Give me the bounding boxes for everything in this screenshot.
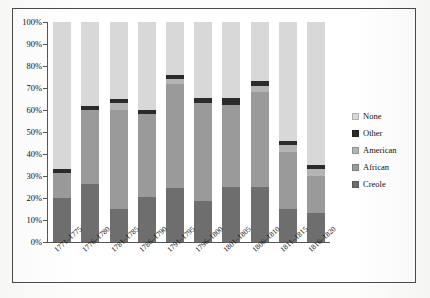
y-axis-tick-label: 0% — [31, 238, 42, 247]
x-axis-labels: 1771–17751776–17801781–17851786–17901791… — [47, 246, 330, 294]
bar-column[interactable] — [251, 22, 269, 242]
bar-segment-none[interactable] — [279, 22, 297, 141]
y-axis-tick-mark — [43, 198, 48, 199]
legend-swatch-icon — [352, 181, 359, 188]
bar-segment-none[interactable] — [222, 22, 240, 98]
plot-area — [47, 22, 330, 243]
bar-segment-american[interactable] — [279, 145, 297, 152]
legend-item-label: African — [363, 163, 389, 172]
y-axis-tick-mark — [43, 242, 48, 243]
legend-item-label: Creole — [363, 180, 386, 189]
y-axis-tick-label: 70% — [26, 84, 42, 93]
bar-segment-none[interactable] — [194, 22, 212, 98]
bar-segment-other[interactable] — [110, 99, 128, 103]
bar-column[interactable] — [222, 22, 240, 242]
y-axis-tick-label: 60% — [26, 106, 42, 115]
bar-segment-none[interactable] — [81, 22, 99, 106]
bar-column[interactable] — [81, 22, 99, 242]
legend-swatch-icon — [352, 113, 359, 120]
y-axis-tick-mark — [43, 22, 48, 23]
bar-segment-none[interactable] — [53, 22, 71, 169]
legend-item-label: American — [363, 146, 397, 155]
bar-segment-other[interactable] — [81, 106, 99, 110]
y-axis-tick-label: 50% — [26, 128, 42, 137]
bar-segment-american[interactable] — [110, 103, 128, 110]
bar-segment-african[interactable] — [279, 152, 297, 209]
y-axis-tick-label: 100% — [22, 18, 42, 27]
y-axis-tick-mark — [43, 88, 48, 89]
bar-column[interactable] — [110, 22, 128, 242]
bar-segment-none[interactable] — [138, 22, 156, 110]
legend-swatch-icon — [352, 147, 359, 154]
bar-column[interactable] — [307, 22, 325, 242]
bar-segment-african[interactable] — [251, 92, 269, 187]
bar-segment-african[interactable] — [166, 84, 184, 189]
bar-segment-american[interactable] — [166, 79, 184, 83]
bar-segment-other[interactable] — [194, 98, 212, 104]
y-axis-tick-mark — [43, 44, 48, 45]
bar-segment-other[interactable] — [166, 75, 184, 79]
y-axis-tick-label: 80% — [26, 62, 42, 71]
bar-column[interactable] — [166, 22, 184, 242]
bar-segment-african[interactable] — [194, 103, 212, 201]
legend-item[interactable]: American — [352, 142, 414, 159]
y-axis-tick-mark — [43, 154, 48, 155]
y-axis-tick-mark — [43, 132, 48, 133]
legend-item-label: Other — [363, 129, 382, 138]
bar-segment-other[interactable] — [138, 110, 156, 114]
bar-column[interactable] — [194, 22, 212, 242]
y-axis-tick-mark — [43, 220, 48, 221]
bar-segment-other[interactable] — [222, 98, 240, 105]
legend-swatch-icon — [352, 130, 359, 137]
bar-segment-american[interactable] — [251, 86, 269, 93]
bar-segment-other[interactable] — [279, 141, 297, 145]
chart-figure: 100%90%80%70%60%50%40%30%20%10%0% 1771–1… — [0, 0, 430, 298]
bar-column[interactable] — [279, 22, 297, 242]
bar-segment-other[interactable] — [53, 169, 71, 172]
bar-segment-other[interactable] — [251, 81, 269, 85]
y-axis-tick-mark — [43, 110, 48, 111]
y-axis-tick-label: 90% — [26, 40, 42, 49]
legend-item[interactable]: None — [352, 108, 414, 125]
legend-item[interactable]: African — [352, 159, 414, 176]
y-axis-labels: 100%90%80%70%60%50%40%30%20%10%0% — [8, 22, 42, 243]
y-axis-tick-label: 30% — [26, 172, 42, 181]
bar-segment-none[interactable] — [166, 22, 184, 75]
y-axis-tick-label: 40% — [26, 150, 42, 159]
legend-item-label: None — [363, 112, 381, 121]
y-axis-tick-label: 20% — [26, 194, 42, 203]
bar-segment-african[interactable] — [138, 114, 156, 197]
bar-column[interactable] — [138, 22, 156, 242]
bar-segment-african[interactable] — [81, 110, 99, 184]
y-axis-tick-mark — [43, 176, 48, 177]
bar-segment-african[interactable] — [222, 105, 240, 188]
chart-legend: NoneOtherAmericanAfricanCreole — [352, 108, 414, 193]
bar-segment-african[interactable] — [110, 110, 128, 209]
bar-segment-none[interactable] — [307, 22, 325, 165]
legend-item[interactable]: Creole — [352, 176, 414, 193]
bar-segment-other[interactable] — [307, 165, 325, 169]
legend-item[interactable]: Other — [352, 125, 414, 142]
legend-swatch-icon — [352, 164, 359, 171]
bar-segment-american[interactable] — [307, 169, 325, 176]
bar-segment-african[interactable] — [307, 176, 325, 213]
y-axis-tick-mark — [43, 66, 48, 67]
y-axis-tick-label: 10% — [26, 216, 42, 225]
bar-segment-african[interactable] — [53, 173, 71, 198]
bar-segment-none[interactable] — [251, 22, 269, 81]
bar-column[interactable] — [53, 22, 71, 242]
bar-segment-none[interactable] — [110, 22, 128, 99]
